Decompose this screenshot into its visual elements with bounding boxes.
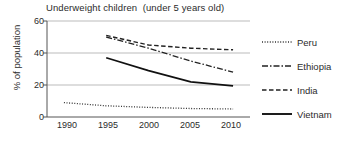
series-line-ethiopia <box>106 37 233 72</box>
legend-item-peru: Peru <box>262 30 358 54</box>
series-lines <box>64 35 233 109</box>
legend-item-india: India <box>262 78 358 102</box>
legend-item-ethiopia: Ethiopia <box>262 54 358 78</box>
chart-figure: Underweight children (under 5 years old)… <box>0 0 360 142</box>
series-line-vietnam <box>106 58 233 86</box>
legend-label-vietnam: Vietnam <box>297 109 332 120</box>
legend-swatch-india-icon <box>262 85 292 95</box>
legend-label-india: India <box>297 85 318 96</box>
legend-swatch-ethiopia-icon <box>262 61 292 71</box>
legend-label-peru: Peru <box>297 37 317 48</box>
legend-label-ethiopia: Ethiopia <box>297 61 331 72</box>
chart-legend: Peru Ethiopia India Vietnam <box>262 30 358 126</box>
series-line-peru <box>64 103 233 109</box>
legend-swatch-peru-icon <box>262 37 292 47</box>
legend-swatch-vietnam-icon <box>262 109 292 119</box>
legend-item-vietnam: Vietnam <box>262 102 358 126</box>
gridlines <box>47 21 250 85</box>
